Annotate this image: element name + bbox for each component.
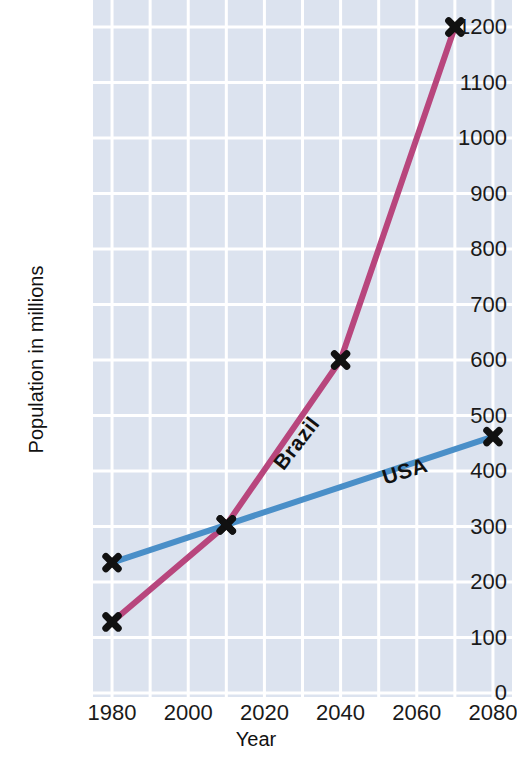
x-tick-label: 1980 [88, 702, 137, 724]
y-tick-label: 500 [424, 405, 512, 427]
y-tick-label: 200 [424, 571, 512, 593]
y-tick-label: 1000 [424, 127, 512, 149]
y-tick-label: 400 [424, 460, 512, 482]
data-point-marker [334, 354, 346, 366]
x-tick-label: 2060 [392, 702, 441, 724]
y-tick-label: 100 [424, 627, 512, 649]
x-tick-label: 2080 [468, 702, 517, 724]
y-tick-label: 1200 [424, 16, 512, 38]
y-tick-label: 1100 [424, 72, 512, 94]
y-tick-label: 600 [424, 349, 512, 371]
data-point-marker [106, 616, 118, 628]
series-line-brazil [112, 27, 455, 622]
y-tick-label: 300 [424, 516, 512, 538]
y-tick-label: 800 [424, 238, 512, 260]
y-tick-label: 900 [424, 183, 512, 205]
x-axis-title: Year [0, 728, 512, 751]
data-point-marker [487, 430, 499, 442]
x-tick-label: 2040 [316, 702, 365, 724]
y-tick-label: 700 [424, 294, 512, 316]
x-tick-label: 2000 [164, 702, 213, 724]
y-axis-title: Population in millions [25, 240, 48, 480]
x-tick-label: 2020 [240, 702, 289, 724]
data-point-marker [220, 519, 232, 531]
series-line-usa [112, 437, 493, 563]
data-point-marker [106, 556, 118, 568]
